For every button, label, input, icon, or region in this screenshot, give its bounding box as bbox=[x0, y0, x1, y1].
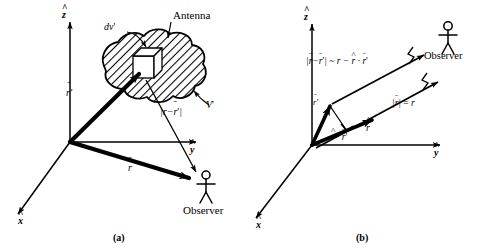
far-field-approximation-label-b: |̄r−̄r'| ~ r − ^r · ̄r' bbox=[306, 57, 368, 67]
vector-label-r-hat-b: ^r bbox=[366, 123, 370, 133]
axis-label-y-a: ^y bbox=[190, 145, 194, 155]
vector-label-r-a: ̄r bbox=[128, 163, 132, 173]
axis-x-line-b bbox=[256, 145, 312, 218]
axis-label-x-a: ^x bbox=[18, 216, 23, 226]
axis-label-z-b: ^z bbox=[304, 12, 308, 22]
antenna-label-a: Antenna bbox=[173, 10, 210, 21]
observer-label-b: Observer bbox=[424, 51, 462, 62]
volume-label-a: V' bbox=[206, 100, 214, 110]
vector-label-r-prime-a: ̄r' bbox=[66, 88, 72, 98]
axis-label-z-a: ^z bbox=[62, 10, 66, 20]
axis-label-x-b: ^x bbox=[256, 220, 261, 230]
distance-label-a: |̄r−̄r'| bbox=[160, 107, 182, 117]
panel-b-graphics bbox=[0, 0, 486, 252]
magnitude-label-b: |̄r| = r bbox=[392, 99, 415, 109]
projection-label-b: ^r · ̄r' bbox=[331, 133, 347, 143]
dv-label-a: dv' bbox=[104, 22, 115, 32]
panel-caption-a: (a) bbox=[113, 233, 125, 243]
vector-label-r-prime-b: ̄r' bbox=[313, 98, 318, 107]
axis-label-y-b: ^y bbox=[434, 148, 438, 158]
observer-label-a: Observer bbox=[183, 205, 223, 216]
observer-head-b bbox=[444, 22, 452, 30]
panel-b-axes bbox=[256, 24, 440, 218]
panel-caption-b: (b) bbox=[356, 233, 368, 243]
antenna-geometry-figure: ^z ^y ^x Antenna dv' V' ̄r' ̄r |̄r−̄r'| … bbox=[0, 0, 486, 252]
